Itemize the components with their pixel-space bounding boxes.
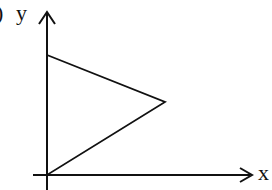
x-axis-label: x [258, 162, 269, 184]
triangle-shape [47, 55, 165, 175]
diagram-svg [0, 0, 272, 190]
y-axis-label: y [16, 2, 27, 24]
coordinate-diagram: ) y x [0, 0, 272, 190]
figure-label-fragment: ) [0, 2, 3, 24]
